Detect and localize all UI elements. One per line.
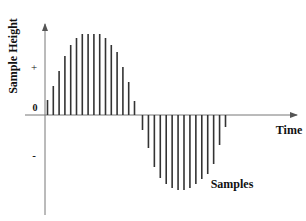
samples-label: Samples — [211, 177, 254, 191]
y-axis-label: Sample Height — [6, 18, 20, 94]
x-axis-label: Time — [276, 123, 303, 137]
tick-label-plus: + — [31, 61, 37, 73]
tick-label-minus: - — [32, 149, 36, 161]
tick-label-zero: 0 — [33, 102, 38, 113]
sample-stems — [48, 34, 226, 190]
sampled-signal-diagram: Sample Height + 0 - Time Samples — [0, 0, 306, 221]
